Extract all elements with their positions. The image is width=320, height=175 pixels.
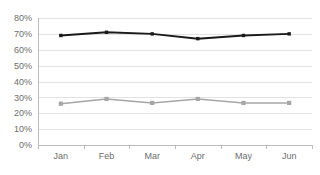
x-tick-label-mar: Mar xyxy=(144,151,160,161)
x-tick-label-jan: Jan xyxy=(54,151,69,161)
y-tick-label: 30% xyxy=(14,93,32,103)
data-point-dark-series-mar xyxy=(150,32,153,35)
series-line-gray-series xyxy=(61,99,289,104)
y-tick-label: 50% xyxy=(14,61,32,71)
data-point-dark-series-apr xyxy=(196,37,199,40)
data-point-dark-series-jun xyxy=(287,32,290,35)
data-point-gray-series-feb xyxy=(104,97,108,101)
x-tick-label-feb: Feb xyxy=(99,151,115,161)
data-point-gray-series-jun xyxy=(287,101,291,105)
y-tick-label: 10% xyxy=(14,124,32,134)
series-line-dark-series xyxy=(61,32,289,38)
y-tick-label: 20% xyxy=(14,108,32,118)
data-point-gray-series-apr xyxy=(196,97,200,101)
line-chart: 0%10%20%30%40%50%60%70%80% JanFebMarAprM… xyxy=(0,0,320,175)
x-tick-label-jun: Jun xyxy=(282,151,297,161)
series-markers-group xyxy=(59,31,292,106)
data-point-dark-series-feb xyxy=(105,31,108,34)
y-axis-labels-group: 0%10%20%30%40%50%60%70%80% xyxy=(14,13,32,150)
y-tick-label: 40% xyxy=(14,77,32,87)
y-tick-label: 0% xyxy=(19,140,32,150)
y-tick-label: 80% xyxy=(14,13,32,23)
x-tick-label-apr: Apr xyxy=(191,151,205,161)
series-lines-group xyxy=(61,32,289,103)
data-point-dark-series-jan xyxy=(59,34,62,37)
data-point-gray-series-jan xyxy=(59,102,63,106)
data-point-gray-series-mar xyxy=(150,101,154,105)
gridlines-group xyxy=(38,19,312,146)
x-axis-labels-group: JanFebMarAprMayJun xyxy=(54,151,297,161)
data-point-gray-series-may xyxy=(241,101,245,105)
y-tick-label: 60% xyxy=(14,45,32,55)
x-tick-label-may: May xyxy=(235,151,253,161)
y-tick-label: 70% xyxy=(14,29,32,39)
chart-container: 0%10%20%30%40%50%60%70%80% JanFebMarAprM… xyxy=(0,0,320,175)
data-point-dark-series-may xyxy=(242,34,245,37)
